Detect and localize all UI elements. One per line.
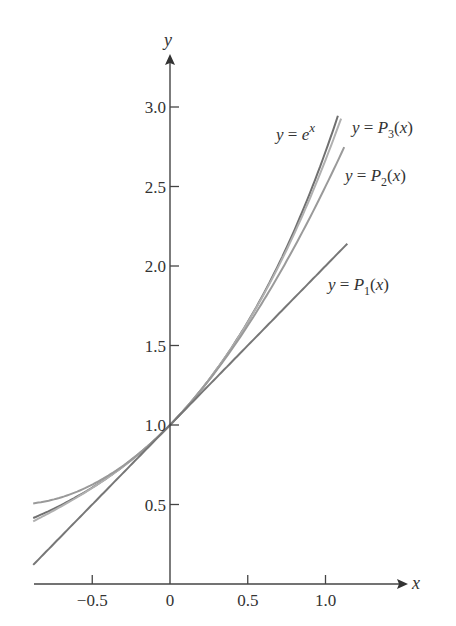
x-tick-label: 0.5 [237, 591, 258, 610]
curve-y-e-x [33, 116, 338, 518]
x-tick-label: −0.5 [77, 591, 108, 610]
label-p3: y = P3(x) [350, 118, 413, 141]
y-ticks: 0.51.01.52.02.53.0 [145, 98, 179, 515]
y-tick-label: 0.5 [145, 496, 166, 515]
x-axis-label: x [411, 573, 420, 593]
curve-y-p3-x- [33, 119, 341, 522]
y-tick-label: 2.0 [145, 257, 166, 276]
curve-y-p1-x- [33, 244, 347, 565]
x-tick-label: 1.0 [315, 591, 336, 610]
curve-y-p2-x- [33, 147, 344, 503]
y-tick-label: 1.0 [145, 416, 166, 435]
y-tick-label: 2.5 [145, 178, 166, 197]
y-axis-label: y [162, 30, 172, 50]
x-ticks: −0.500.51.0 [77, 575, 336, 610]
y-tick-label: 3.0 [145, 98, 166, 117]
label-p1: y = P1(x) [326, 275, 389, 298]
label-p2: y = P2(x) [343, 166, 406, 189]
y-tick-label: 1.5 [145, 337, 166, 356]
taylor-polynomial-chart: x y −0.500.51.0 0.51.01.52.02.53.0 y = e… [0, 0, 456, 626]
x-tick-label: 0 [166, 591, 175, 610]
plot-curves [33, 116, 347, 565]
label-exp: y = ex [274, 120, 315, 144]
